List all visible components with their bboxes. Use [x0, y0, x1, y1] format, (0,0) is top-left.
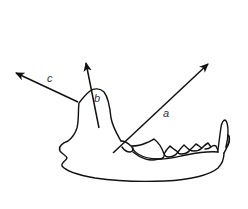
vector-c-label: c [47, 73, 53, 84]
diagram-svg [0, 0, 248, 209]
jaw-body-outline [59, 89, 224, 182]
mandible-force-diagram: a b c [0, 0, 248, 209]
force-vectors [16, 63, 208, 153]
gum-line-outline [133, 152, 218, 160]
incisor-outline [218, 120, 228, 150]
vector-b-label: b [94, 93, 100, 104]
mandible-outline [59, 89, 229, 182]
tooth-row-outline [121, 139, 218, 159]
vector-a-label: a [163, 108, 169, 119]
vector-a-arrow [113, 64, 208, 153]
